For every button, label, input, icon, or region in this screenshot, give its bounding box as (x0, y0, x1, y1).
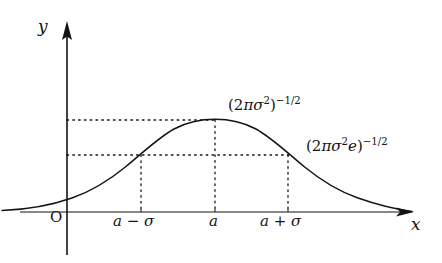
annotation-inflection-pi: π (321, 137, 331, 155)
origin-label: O (50, 210, 62, 225)
annotation-inflection-two: 2 (312, 137, 322, 155)
x-tick-label-a-minus-sigma: a − σ (113, 214, 154, 229)
y-axis (62, 21, 72, 255)
annotation-peak-value: (2πσ2)−1/2 (228, 96, 301, 113)
annotation-peak-sigma: σ (253, 96, 263, 114)
normal-distribution-figure (0, 0, 442, 263)
x-tick-label-a-plus-sigma: a + σ (260, 214, 301, 229)
annotation-inflection-value: (2πσ2e)−1/2 (306, 137, 388, 154)
y-axis-label: y (38, 18, 48, 35)
x-tick-label-a: a (209, 214, 218, 229)
annotation-inflection-exponent: −1/2 (363, 136, 388, 147)
annotation-inflection-e: e (348, 137, 357, 155)
annotation-inflection-sigma: σ (331, 137, 341, 155)
gaussian-density-curve (2, 119, 412, 211)
annotation-peak-exponent: −1/2 (276, 95, 301, 106)
x-axis-label: x (411, 216, 421, 233)
annotation-peak-two: 2 (234, 96, 244, 114)
annotation-peak-pi: π (243, 96, 253, 114)
